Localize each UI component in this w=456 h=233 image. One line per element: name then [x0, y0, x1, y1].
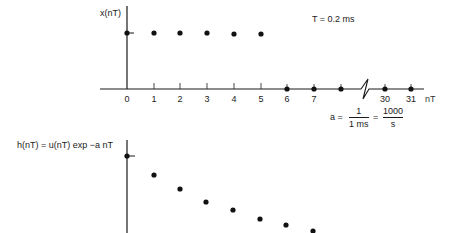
- tick-label-4: 4: [231, 94, 236, 104]
- top-y-axis-label: x(nT): [100, 8, 121, 18]
- fraction-1-denominator: 1 ms: [349, 119, 369, 129]
- sampling-period-annotation: T = 0.2 ms: [312, 14, 355, 24]
- top-x-ticks: [154, 83, 411, 89]
- fraction-2-denominator: s: [391, 119, 396, 129]
- fraction-1000-over-s: 1000 s: [383, 106, 403, 129]
- tick-label-30: 30: [380, 94, 390, 104]
- tick-label-7: 7: [311, 94, 316, 104]
- tick-label-0: 0: [124, 94, 129, 104]
- bottom-y-axis-label: h(nT) = u(nT) exp −a nT: [17, 140, 113, 150]
- bottom-data-points: [124, 153, 315, 233]
- tick-label-1: 1: [151, 94, 156, 104]
- fraction-bar: [349, 117, 369, 118]
- tick-label-31: 31: [406, 94, 416, 104]
- tick-label-5: 5: [258, 94, 263, 104]
- top-x-axis-label: nT: [425, 94, 436, 104]
- fraction-bar: [383, 117, 403, 118]
- formula-lhs: a =: [330, 112, 343, 122]
- tick-label-2: 2: [177, 94, 182, 104]
- fraction-1-numerator: 1: [356, 106, 361, 116]
- tick-label-3: 3: [204, 94, 209, 104]
- tick-label-6: 6: [284, 94, 289, 104]
- top-data-points: [124, 30, 413, 91]
- formula-equals: =: [373, 112, 378, 122]
- fraction-1-over-1ms: 1 1 ms: [349, 106, 369, 129]
- fraction-2-numerator: 1000: [383, 106, 403, 116]
